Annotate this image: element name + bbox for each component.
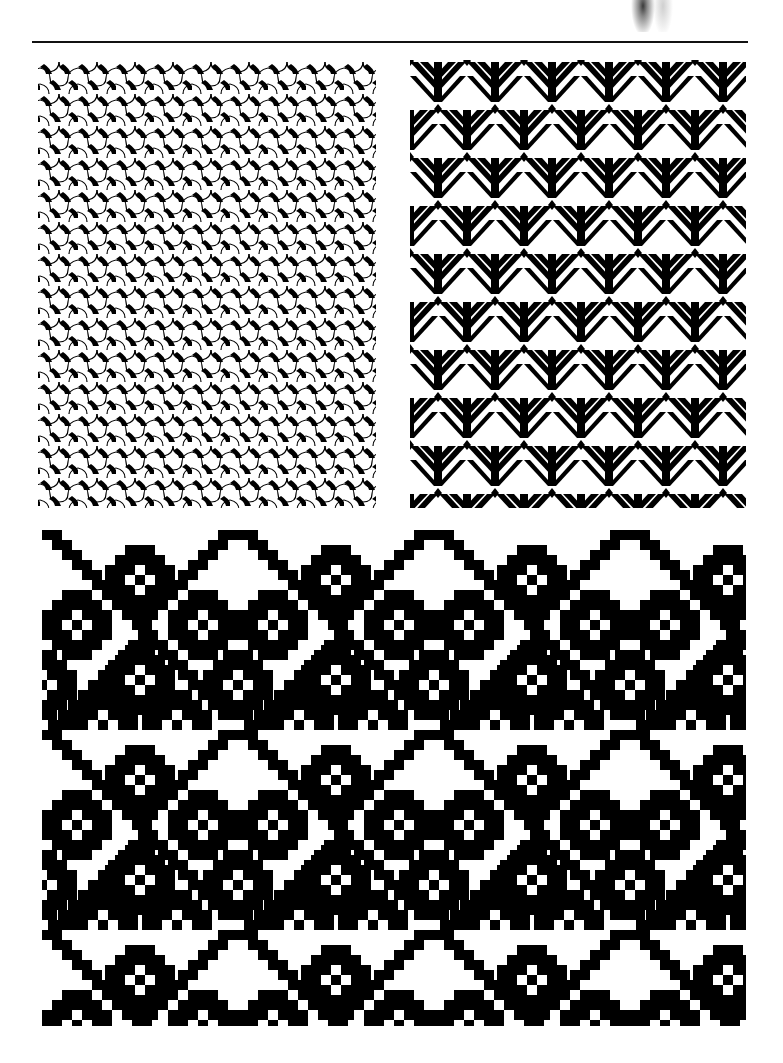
header-rule <box>32 41 748 43</box>
pixel-diamond-lattice-pattern <box>42 530 746 1026</box>
tree-chevron-pattern <box>410 60 746 508</box>
trefoil-weave-pattern <box>38 62 376 508</box>
pattern-panel-top-left <box>38 62 376 508</box>
pattern-panel-top-right <box>410 60 746 508</box>
page-binding-shadow <box>615 0 675 32</box>
pattern-panel-bottom <box>42 530 746 1026</box>
